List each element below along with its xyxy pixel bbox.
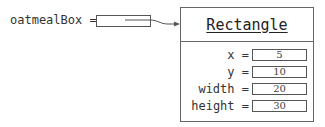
field-height: height = 30 — [181, 100, 313, 112]
field-value-box: 10 — [252, 66, 307, 78]
field-y: y = 10 — [181, 66, 313, 78]
field-label: width = — [198, 81, 249, 97]
variable-label: oatmealBox = — [10, 12, 97, 28]
field-label: height = — [191, 98, 249, 114]
class-name: Rectangle — [206, 16, 287, 34]
field-label: x = — [227, 47, 249, 63]
rectangle-object: Rectangle x = 5 y = 10 width = 20 height… — [180, 7, 314, 122]
field-x: x = 5 — [181, 49, 313, 61]
field-label: y = — [227, 64, 249, 80]
reference-variable-box — [96, 15, 151, 27]
field-value-box: 20 — [252, 83, 307, 95]
field-value-box: 30 — [252, 100, 307, 112]
field-value-box: 5 — [252, 49, 307, 61]
object-header: Rectangle — [181, 8, 313, 42]
field-width: width = 20 — [181, 83, 313, 95]
